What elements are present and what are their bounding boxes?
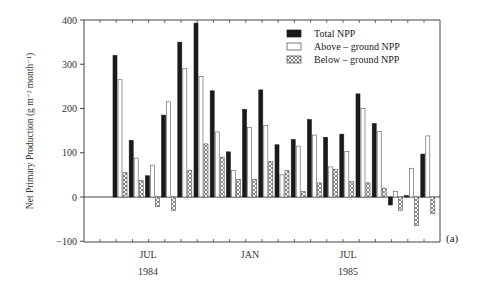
npp-bar-chart: −1000100200300400 Net Primary Production… [0, 0, 481, 294]
x-label-year-1985: 1985 [338, 266, 358, 277]
bar-above [231, 170, 235, 197]
bar-below [253, 179, 257, 197]
bar-group [194, 23, 208, 197]
bar-total [356, 94, 360, 197]
bar-above [345, 151, 349, 197]
bar-group [243, 109, 257, 197]
bar-above [280, 175, 284, 197]
bar-above [296, 146, 300, 197]
legend-label-above: Above – ground NPP [314, 41, 400, 52]
bar-group [275, 145, 289, 197]
bar-group [307, 120, 321, 197]
bar-group [372, 124, 386, 197]
bar-group [388, 192, 402, 211]
bar-below [301, 192, 305, 197]
legend: Total NPP Above – ground NPP Below – gro… [287, 28, 400, 65]
bar-total [259, 90, 263, 197]
x-label-jul-1984: JUL [139, 249, 156, 260]
bar-below [123, 173, 127, 197]
bar-total [405, 196, 409, 197]
bar-above [167, 102, 171, 197]
y-axis-ticks: −1000100200300400 [56, 15, 84, 247]
bar-total [194, 23, 198, 197]
bar-group [421, 136, 435, 214]
bar-total [145, 176, 149, 197]
bar-total [275, 145, 279, 197]
legend-swatch-below-icon [287, 56, 301, 63]
bar-group [162, 102, 176, 210]
bar-below [415, 197, 419, 226]
bar-above [393, 192, 397, 197]
bar-total [113, 55, 117, 197]
bar-below [431, 197, 435, 214]
y-tick-label: 300 [62, 59, 77, 70]
bar-total [388, 197, 392, 205]
bar-above [410, 168, 414, 197]
legend-swatch-total-icon [287, 30, 301, 37]
bar-group [291, 139, 305, 197]
bar-above [150, 165, 154, 197]
bar-total [226, 152, 230, 197]
y-tick-label: 100 [62, 147, 77, 158]
y-tick-label: 400 [62, 15, 77, 26]
y-tick-label: 0 [72, 192, 77, 203]
bar-above [199, 77, 203, 197]
bar-above [264, 125, 268, 197]
bar-total [243, 109, 247, 197]
bar-group [259, 90, 273, 197]
bar-group [405, 168, 419, 226]
bar-total [291, 139, 295, 197]
bar-above [134, 158, 138, 197]
x-label-jul-1985: JUL [339, 249, 356, 260]
bar-group [178, 42, 192, 197]
bar-below [382, 188, 386, 197]
legend-label-below: Below – ground NPP [314, 54, 400, 65]
bar-group [356, 94, 370, 197]
bar-group [226, 152, 240, 197]
bar-below [285, 170, 289, 197]
bar-total [210, 91, 214, 197]
bar-group [129, 140, 143, 197]
bar-above [361, 109, 365, 198]
bar-group [340, 134, 354, 197]
bar-below [269, 162, 273, 197]
bar-total [178, 42, 182, 197]
bar-total [324, 137, 328, 197]
bar-above [377, 132, 381, 197]
bar-below [236, 179, 240, 197]
legend-label-total: Total NPP [314, 28, 356, 39]
legend-swatch-above-icon [287, 43, 301, 50]
bar-group [210, 91, 224, 197]
bar-total [372, 124, 376, 197]
bar-below [398, 197, 402, 210]
panel-label: (a) [446, 232, 459, 245]
bar-group [145, 165, 159, 207]
bar-group [113, 55, 127, 197]
bar-below [155, 197, 159, 207]
bar-total [340, 134, 344, 197]
bar-below [366, 183, 370, 197]
y-tick-label: 200 [62, 103, 77, 114]
bar-below [204, 144, 208, 197]
bar-total [421, 154, 425, 197]
bar-below [188, 170, 192, 197]
bar-group [324, 137, 338, 197]
bar-below [334, 170, 338, 197]
bar-total [129, 140, 133, 197]
bar-above [183, 69, 187, 197]
x-label-jan: JAN [241, 249, 259, 260]
bar-total [162, 115, 166, 197]
bar-total [307, 120, 311, 197]
bar-below [350, 182, 354, 197]
y-axis-title: Net Primary Production (g m⁻² month⁻¹) [25, 53, 36, 209]
bar-above [329, 167, 333, 197]
bar-above [215, 132, 219, 197]
bar-below [220, 157, 224, 197]
bar-below [172, 197, 176, 210]
bar-above [118, 80, 122, 197]
x-axis-labels: JUL 1984 JAN JUL 1985 [138, 249, 358, 277]
bar-below [139, 180, 143, 197]
bar-below [317, 183, 321, 197]
x-label-year-1984: 1984 [138, 266, 158, 277]
bar-above [426, 136, 430, 197]
